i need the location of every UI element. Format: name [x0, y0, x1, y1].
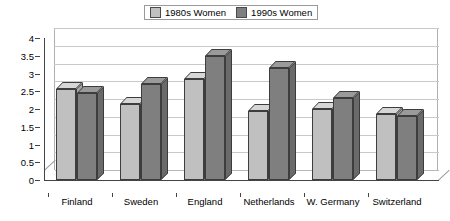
x-axis-tick-mark	[48, 193, 49, 197]
chart-legend: 1980s Women 1990s Women	[144, 5, 318, 20]
bar-side-face	[161, 77, 168, 180]
y-axis-tick-mark	[35, 56, 40, 57]
bar-group	[376, 28, 440, 180]
y-axis-tick-mark	[35, 162, 40, 163]
bar[interactable]	[77, 93, 97, 180]
legend-swatch-1990s-women	[236, 7, 247, 18]
x-axis-category-label: Switzerland	[372, 196, 421, 207]
legend-label-1980s-women: 1980s Women	[165, 7, 226, 18]
bar-group	[312, 28, 376, 180]
y-axis-tick-label: 3.5	[21, 52, 34, 61]
bar-front-face	[56, 89, 76, 180]
bar[interactable]	[312, 109, 332, 180]
y-axis-tick-label: 1	[29, 141, 34, 150]
bar[interactable]	[248, 111, 268, 180]
x-axis-category-label: Netherlands	[243, 196, 294, 207]
bar-group	[248, 28, 312, 180]
bar-group	[120, 28, 184, 180]
bar-front-face	[120, 104, 140, 180]
bar-front-face	[333, 98, 353, 180]
legend-swatch-1980s-women	[150, 7, 161, 18]
x-axis-tick-mark	[240, 193, 241, 197]
x-axis-tick-mark	[368, 193, 369, 197]
bar-front-face	[376, 114, 396, 180]
x-axis-tick-mark	[176, 193, 177, 197]
bar-front-face	[205, 56, 225, 180]
y-axis-tick-label: 0	[29, 176, 34, 185]
y-axis-tick-label: 4	[29, 34, 34, 43]
y-axis-tick-mark	[35, 74, 40, 75]
bar-side-face	[289, 61, 296, 180]
x-axis-labels: FinlandSwedenEnglandNetherlandsW. German…	[0, 196, 450, 216]
legend-label-1990s-women: 1990s Women	[251, 7, 312, 18]
legend-item-1980s-women: 1980s Women	[150, 7, 226, 18]
bar-front-face	[77, 93, 97, 180]
y-axis-tick-label: 2.5	[21, 87, 34, 96]
y-axis-tick-mark	[35, 180, 40, 181]
y-axis-tick-mark	[35, 145, 40, 146]
bar[interactable]	[184, 79, 204, 180]
bar-side-face	[417, 109, 424, 180]
bar[interactable]	[333, 98, 353, 180]
y-axis-tick-label: 2	[29, 105, 34, 114]
y-axis-tick-mark	[35, 38, 40, 39]
bar[interactable]	[397, 116, 417, 180]
bar-front-face	[141, 84, 161, 180]
bar[interactable]	[376, 114, 396, 180]
bar[interactable]	[269, 68, 289, 180]
y-axis-tick-mark	[35, 109, 40, 110]
bar[interactable]	[141, 84, 161, 180]
bar-side-face	[353, 92, 360, 180]
x-axis-category-label: Finland	[61, 196, 92, 207]
bar-side-face	[225, 49, 232, 180]
bar-group	[184, 28, 248, 180]
chart-container: 1980s Women 1990s Women 43.532.521.510.5…	[0, 0, 450, 221]
plot-area: 43.532.521.510.50	[0, 28, 450, 193]
bar-front-face	[269, 68, 289, 180]
y-axis-tick-label: 0.5	[21, 158, 34, 167]
x-axis-category-label: W. Germany	[307, 196, 360, 207]
y-axis-tick-label: 1.5	[21, 123, 34, 132]
bar-group	[56, 28, 120, 180]
y-axis-tick-mark	[35, 91, 40, 92]
bar[interactable]	[205, 56, 225, 180]
x-axis-category-label: England	[188, 196, 223, 207]
x-axis-tick-mark	[112, 193, 113, 197]
bar-front-face	[248, 111, 268, 180]
y-axis-tick-mark	[35, 127, 40, 128]
x-axis-tick-mark	[304, 193, 305, 197]
bar[interactable]	[120, 104, 140, 180]
bar-front-face	[184, 79, 204, 180]
bar-series-group	[44, 28, 439, 181]
bar-front-face	[312, 109, 332, 180]
y-axis-tick-label: 3	[29, 70, 34, 79]
bar[interactable]	[56, 89, 76, 180]
bar-side-face	[97, 86, 104, 180]
legend-item-1990s-women: 1990s Women	[236, 7, 312, 18]
x-axis-category-label: Sweden	[124, 196, 158, 207]
y-axis: 43.532.521.510.50	[0, 28, 44, 180]
bar-front-face	[397, 116, 417, 180]
